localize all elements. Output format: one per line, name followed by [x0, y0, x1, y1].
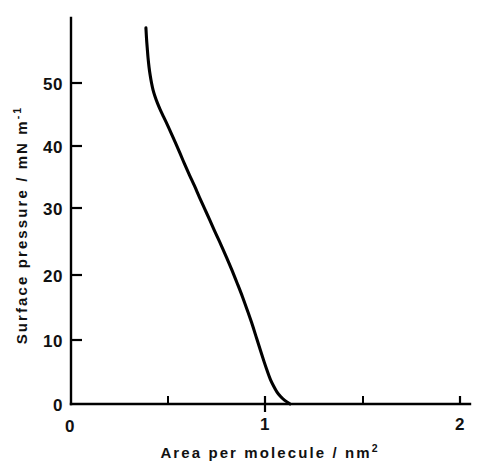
- surface-pressure-isotherm-chart: 50 40 30 20 10 0 0 1 2 Area per molecule…: [0, 0, 490, 471]
- x-tick-label-1: 1: [260, 415, 270, 434]
- x-tick-label-2: 2: [455, 415, 465, 434]
- x-axis-title: Area per molecule / nm2: [160, 442, 379, 461]
- x-axis-title-exponent: 2: [372, 442, 380, 454]
- y-tick-label-10: 10: [43, 332, 63, 351]
- y-tick-label-30: 30: [43, 200, 63, 219]
- y-tick-label-50: 50: [43, 75, 63, 94]
- y-axis-tick-labels: 50 40 30 20 10 0: [43, 75, 63, 415]
- svg-text:Surface pressure / mN m-1: Surface pressure / mN m-1: [11, 106, 30, 345]
- y-axis-title-text: Surface pressure / mN m: [13, 119, 30, 344]
- y-axis-ticks: [71, 83, 82, 340]
- svg-text:Area per molecule / nm2: Area per molecule / nm2: [160, 442, 379, 461]
- x-axis-title-text: Area per molecule / nm: [160, 444, 371, 461]
- y-tick-label-40: 40: [43, 138, 63, 157]
- y-axis-title: Surface pressure / mN m-1: [11, 106, 30, 345]
- y-tick-label-0: 0: [53, 396, 63, 415]
- x-axis-tick-labels: 0 1 2: [65, 415, 465, 436]
- isotherm-curve: [146, 28, 290, 404]
- y-axis-title-exponent: -1: [11, 106, 23, 120]
- x-tick-label-0: 0: [65, 417, 75, 436]
- y-tick-label-20: 20: [43, 267, 63, 286]
